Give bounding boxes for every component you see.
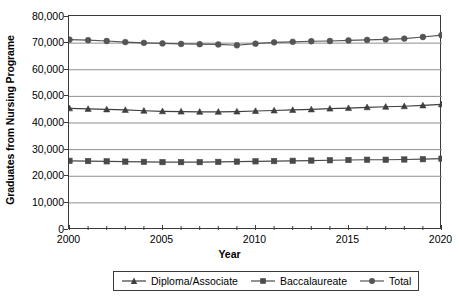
data-point [439, 32, 442, 38]
series-baccalaureate [69, 156, 442, 165]
data-point [271, 158, 276, 163]
y-tick-label: 20,000 [16, 170, 64, 180]
y-tick-label: 10,000 [16, 197, 64, 207]
data-point [253, 159, 258, 164]
data-point [178, 41, 184, 47]
legend-label: Total [389, 275, 411, 287]
data-point [346, 157, 351, 162]
data-point [197, 159, 202, 164]
data-point [160, 159, 165, 164]
data-point [290, 39, 296, 45]
data-point [85, 37, 91, 43]
data-point [104, 38, 110, 44]
data-point [85, 158, 90, 163]
series-total [69, 32, 442, 48]
y-tick-mark [64, 229, 68, 230]
data-point [197, 41, 203, 47]
data-point [346, 38, 352, 44]
data-point [327, 38, 333, 44]
data-point [364, 37, 370, 43]
data-point [69, 37, 72, 43]
data-point [234, 159, 239, 164]
data-point [420, 157, 425, 162]
legend-entry[interactable]: Baccalaureate [250, 275, 347, 287]
x-tick-label: 2005 [142, 233, 182, 245]
series-diploma-associate [69, 101, 442, 114]
data-point [215, 42, 221, 48]
y-tick-label: 50,000 [16, 90, 64, 100]
x-axis-title: Year [0, 248, 459, 260]
data-point [234, 42, 240, 48]
data-point [383, 36, 389, 42]
y-tick-label: 70,000 [16, 37, 64, 47]
y-tick-label: 40,000 [16, 117, 64, 127]
legend-label: Baccalaureate [280, 275, 347, 287]
data-point [160, 40, 166, 46]
data-point [253, 41, 259, 47]
data-point [327, 158, 332, 163]
data-point [123, 159, 128, 164]
y-tick-label: 30,000 [16, 144, 64, 154]
legend-marker-square-icon [250, 275, 276, 287]
data-point [122, 39, 128, 45]
y-tick-label: 80,000 [16, 11, 64, 21]
legend-label: Diploma/Associate [151, 275, 238, 287]
legend-entry[interactable]: Total [359, 275, 411, 287]
data-point [420, 34, 426, 40]
legend-entry[interactable]: Diploma/Associate [121, 275, 238, 287]
data-point [439, 156, 442, 161]
x-tick-label: 2020 [421, 233, 459, 245]
data-point [69, 158, 72, 163]
data-point [141, 159, 146, 164]
data-point [178, 159, 183, 164]
x-tick-label: 2000 [49, 233, 89, 245]
data-point [141, 40, 147, 46]
legend-marker-triangle-icon [121, 275, 147, 287]
data-point [364, 157, 369, 162]
data-point [308, 38, 314, 44]
plot-area [68, 15, 441, 229]
data-point [402, 157, 407, 162]
chart-legend: Diploma/AssociateBaccalaureateTotal [113, 271, 419, 291]
nursing-graduates-line-chart: Graduates from Nursing Programe 010,0002… [0, 0, 459, 300]
data-point [309, 158, 314, 163]
legend-marker-circle-icon [359, 275, 385, 287]
plot-svg [69, 16, 442, 230]
data-point [216, 159, 221, 164]
data-point [383, 157, 388, 162]
data-point [290, 158, 295, 163]
data-point [401, 36, 407, 42]
y-tick-label: 60,000 [16, 64, 64, 74]
data-point [271, 39, 277, 45]
x-axis-tick-labels: 20002005201020152020 [0, 233, 459, 247]
data-point [104, 159, 109, 164]
x-tick-label: 2015 [328, 233, 368, 245]
x-tick-label: 2010 [235, 233, 275, 245]
y-tick-label: 0 [16, 224, 64, 234]
